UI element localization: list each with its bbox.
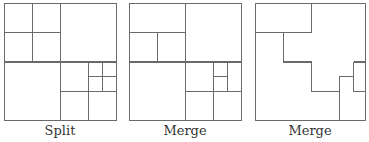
panel-split	[5, 4, 117, 121]
panel-label-merge-2: Merge	[254, 123, 366, 138]
panel-label-split: Split	[4, 123, 116, 138]
panel-merge-2	[256, 4, 366, 121]
panel-label-merge-1: Merge	[129, 123, 241, 138]
panel-merge-1	[130, 4, 242, 121]
split-merge-diagram	[0, 0, 369, 142]
